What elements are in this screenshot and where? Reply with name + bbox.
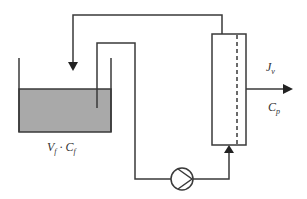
permeate-arrow-icon bbox=[283, 84, 293, 94]
tank-label: Vf · Cf bbox=[47, 140, 76, 156]
flux-label: Jv bbox=[266, 60, 275, 76]
permeate-concentration-label: Cp bbox=[268, 100, 280, 116]
feed-arrow-icon bbox=[224, 145, 234, 153]
process-diagram bbox=[0, 0, 307, 199]
return-arrow-icon bbox=[68, 62, 78, 71]
feed-line bbox=[193, 152, 229, 179]
pump-icon bbox=[171, 168, 193, 190]
membrane-module bbox=[212, 34, 246, 145]
retentate-line bbox=[73, 15, 222, 62]
